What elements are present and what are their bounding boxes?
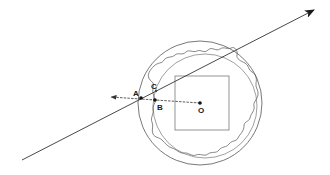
point-a <box>139 96 143 100</box>
incident-ray <box>22 10 314 160</box>
label-o: O <box>198 106 204 115</box>
point-b <box>153 98 157 102</box>
diagram-canvas: A B C O <box>0 0 330 175</box>
label-c: C <box>151 82 157 91</box>
inner-circle <box>153 54 257 158</box>
label-b: B <box>157 103 163 112</box>
label-a: A <box>133 89 139 98</box>
point-o <box>198 101 202 105</box>
square <box>175 76 229 130</box>
